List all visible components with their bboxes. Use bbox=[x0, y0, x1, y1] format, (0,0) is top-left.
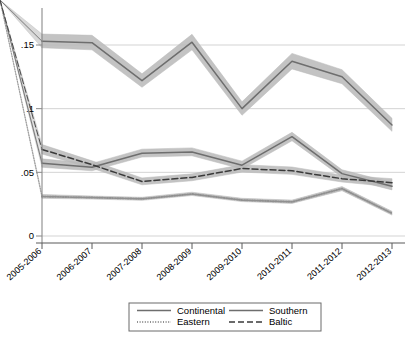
x-tick-label: 2012-2013 bbox=[355, 246, 394, 282]
x-tick-label: 2011-2012 bbox=[305, 246, 343, 282]
legend-label-southern[interactable]: Southern bbox=[269, 305, 308, 316]
chart-container: 0.05.1.15 2005-20062006-20072007-2008200… bbox=[0, 0, 411, 345]
x-tick-label: 2008-2009 bbox=[155, 246, 194, 282]
legend-label-continental[interactable]: Continental bbox=[177, 305, 225, 316]
line-chart-plot: 0.05.1.15 2005-20062006-20072007-2008200… bbox=[0, 0, 411, 345]
x-tick-label: 2006-2007 bbox=[55, 246, 94, 282]
x-axis-ticks: 2005-20062006-20072007-20082008-20092009… bbox=[5, 243, 394, 282]
legend-label-baltic[interactable]: Baltic bbox=[269, 316, 292, 327]
series-line-eastern bbox=[42, 189, 392, 214]
confidence-bands-group bbox=[0, 0, 392, 215]
series-tail-continental bbox=[0, 0, 42, 41]
x-tick-label: 2010-2011 bbox=[255, 246, 293, 282]
gridlines-group bbox=[42, 45, 405, 236]
y-tick-label: 0 bbox=[29, 230, 34, 241]
legend-label-eastern[interactable]: Eastern bbox=[177, 316, 210, 327]
ci-band-continental bbox=[42, 34, 392, 131]
y-tick-label: .05 bbox=[21, 167, 34, 178]
x-tick-label: 2005-2006 bbox=[5, 246, 44, 282]
series-lines-group bbox=[0, 0, 392, 213]
chart-legend[interactable]: ContinentalSouthernEasternBaltic bbox=[129, 303, 321, 331]
ci-band-eastern bbox=[42, 187, 392, 216]
x-tick-label: 2009-2010 bbox=[205, 246, 244, 282]
x-tick-label: 2007-2008 bbox=[105, 246, 144, 282]
y-tick-label: .15 bbox=[21, 39, 34, 50]
y-tick-label: .1 bbox=[26, 103, 34, 114]
series-tail-southern bbox=[0, 0, 42, 163]
